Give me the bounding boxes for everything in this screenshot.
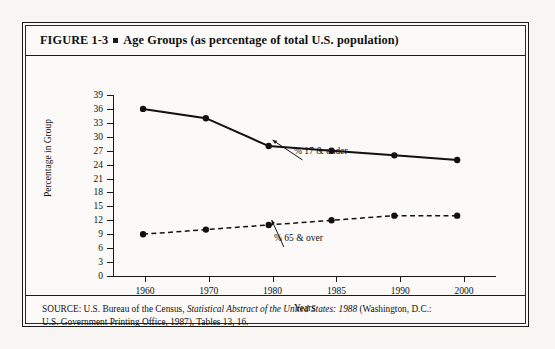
data-point-marker xyxy=(140,231,146,237)
figure-title-bar: FIGURE 1-3Age Groups (as percentage of t… xyxy=(26,26,525,56)
source-text-a: SOURCE: U.S. Bureau of the Census, xyxy=(42,304,187,314)
annotation-upper-label: % 17 & under xyxy=(294,146,348,156)
figure-number: FIGURE 1-3 xyxy=(40,33,108,47)
data-point-marker xyxy=(454,157,460,163)
bullet-square-icon xyxy=(113,38,118,43)
figure-title-label: Age Groups (as percentage of total U.S. … xyxy=(123,33,399,47)
series-line-2 xyxy=(143,216,457,235)
data-point-marker xyxy=(266,143,272,149)
data-point-marker xyxy=(328,217,334,223)
chart-plot-area: Percentage in Group 03691215182124273033… xyxy=(26,57,525,294)
data-point-marker xyxy=(140,106,146,112)
data-point-marker xyxy=(391,212,397,218)
annotation-upper-series: % 17 & under xyxy=(294,146,348,156)
source-text-line2: U.S. Government Printing Office, 1987), … xyxy=(42,317,248,327)
source-publication-title: Statistical Abstract of the United State… xyxy=(187,304,357,314)
data-point-marker xyxy=(266,222,272,228)
source-text-b: (Washington, D.C.: xyxy=(357,304,431,314)
data-point-marker xyxy=(391,152,397,158)
data-point-marker xyxy=(203,115,209,121)
chart-series-layer xyxy=(26,57,525,294)
source-note: SOURCE: U.S. Bureau of the Census, Stati… xyxy=(26,295,525,325)
figure-box: FIGURE 1-3Age Groups (as percentage of t… xyxy=(22,22,529,327)
data-point-marker xyxy=(454,212,460,218)
figure-page: FIGURE 1-3Age Groups (as percentage of t… xyxy=(0,0,555,349)
annotation-lower-label: % 65 & over xyxy=(274,233,323,243)
data-point-marker xyxy=(203,226,209,232)
page-title: FIGURE 1-3Age Groups (as percentage of t… xyxy=(26,33,399,48)
annotation-lower-series: % 65 & over xyxy=(274,233,323,243)
